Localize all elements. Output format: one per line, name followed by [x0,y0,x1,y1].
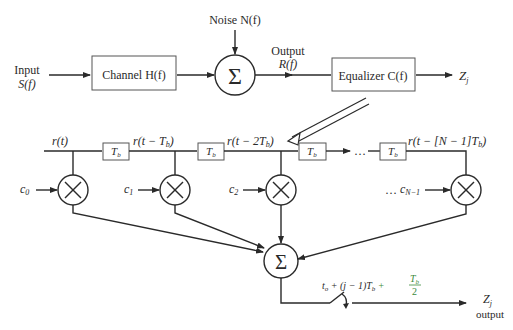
input-label: Input [14,63,40,77]
output-label: Output [271,44,305,58]
tapped-delay-line: r(t) Tb r(t − Tb) Tb r(t − 2Tb) Tb … Tb … [20,134,504,320]
coef-2: c2 [229,182,238,197]
sample-time-label: to + (j − 1)Tb + [322,280,385,293]
sample-frac-num: Tb [410,273,420,286]
top-chain: Input S(f) Channel H(f) Noise N(f) Σ Out… [14,13,469,95]
noise-label: Noise N(f) [209,13,261,27]
equalizer-diagram: Input S(f) Channel H(f) Noise N(f) Σ Out… [0,0,513,330]
input-signal: S(f) [18,77,35,91]
coef-0: c0 [20,182,29,197]
equalizer-label: Equalizer C(f) [339,69,408,83]
coef-1: c1 [124,182,133,197]
tap-signal-2: r(t − 2Tb) [227,134,274,149]
multiplier-2 [266,175,296,205]
sample-frac-den: 2 [412,286,417,297]
output-signal: R(f) [278,57,298,71]
output-Z: Zj [483,292,493,308]
multiplier-0 [58,175,88,205]
ellipsis-top: … [354,144,366,158]
multiplier-1 [160,175,190,205]
sigma-symbol: Σ [228,63,242,89]
tap-signal-0: r(t) [52,134,68,148]
coef-n: cN−1 [400,182,420,197]
tap-signal-1: r(t − Tb) [133,134,174,149]
channel-label: Channel H(f) [102,68,166,82]
output-word: output [476,308,504,320]
sigma-symbol-2: Σ [275,250,287,274]
ellipsis-middle: … [385,183,397,197]
result-label: Zj [459,68,469,85]
multiplier-n [451,175,481,205]
sampler-switch-icon [330,292,349,309]
tap-signal-n: r(t − [N − 1]Tb) [408,134,486,149]
expand-arrow-icon [288,98,369,145]
